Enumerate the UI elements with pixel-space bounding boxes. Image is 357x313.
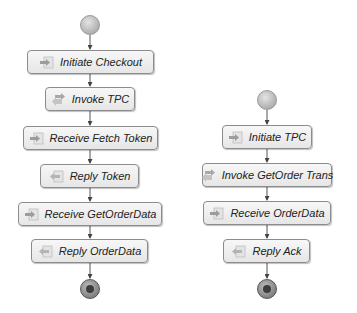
- connector-edges: [0, 0, 357, 313]
- activity-initiate-checkout[interactable]: Initiate Checkout: [27, 50, 154, 74]
- reply-icon: [49, 170, 64, 183]
- reply-icon: [38, 245, 53, 258]
- invoke-arrows-icon: [51, 93, 66, 106]
- end-event-left[interactable]: [80, 279, 100, 299]
- activity-label: Invoke TPC: [72, 93, 129, 105]
- receive-arrow-icon: [209, 207, 224, 220]
- activity-invoke-tpc[interactable]: Invoke TPC: [45, 87, 135, 111]
- process-diagram: Initiate Checkout Invoke TPC Receive Fet…: [0, 0, 357, 313]
- activity-label: Reply Ack: [252, 245, 301, 257]
- activity-receive-fetch-token[interactable]: Receive Fetch Token: [23, 126, 158, 150]
- activity-label: Initiate TPC: [249, 131, 306, 143]
- activity-label: Reply OrderData: [59, 245, 142, 257]
- activity-label: Reply Token: [70, 170, 131, 182]
- activity-label: Receive OrderData: [230, 207, 324, 219]
- receive-arrow-icon: [228, 131, 243, 144]
- activity-label: Initiate Checkout: [60, 56, 142, 68]
- activity-initiate-tpc[interactable]: Initiate TPC: [222, 125, 312, 149]
- start-event-right[interactable]: [257, 90, 277, 110]
- activity-invoke-getorder-trans[interactable]: Invoke GetOrder Trans: [202, 163, 332, 187]
- activity-label: Receive Fetch Token: [50, 132, 153, 144]
- end-event-core: [263, 285, 271, 293]
- receive-arrow-icon: [39, 56, 54, 69]
- receive-arrow-icon: [29, 132, 44, 145]
- end-event-right[interactable]: [257, 279, 277, 299]
- activity-label: Invoke GetOrder Trans: [222, 169, 334, 181]
- activity-receive-orderdata[interactable]: Receive OrderData: [203, 201, 331, 225]
- activity-label: Receive GetOrderData: [45, 208, 157, 220]
- activity-reply-orderdata[interactable]: Reply OrderData: [31, 239, 148, 263]
- receive-arrow-icon: [24, 208, 39, 221]
- reply-icon: [231, 245, 246, 258]
- invoke-arrows-icon: [201, 169, 216, 182]
- start-event-left[interactable]: [80, 15, 100, 35]
- activity-reply-ack[interactable]: Reply Ack: [223, 239, 310, 263]
- activity-receive-getorderdata[interactable]: Receive GetOrderData: [18, 202, 162, 226]
- activity-reply-token[interactable]: Reply Token: [40, 164, 139, 188]
- end-event-core: [86, 285, 94, 293]
